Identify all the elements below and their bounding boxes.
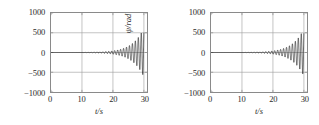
x-axis-title-psi: t/s	[210, 107, 308, 116]
x-tick-label: 30	[141, 95, 149, 104]
y-tick-label: 0	[41, 48, 45, 57]
panel-psi: 10005000−500−1000 0102030 t/s ψ/rad	[160, 0, 319, 125]
y-tick-label: −1000	[24, 89, 45, 98]
plot-area-psi	[210, 12, 308, 93]
x-tick-label: 10	[238, 95, 246, 104]
y-tick-label: 500	[33, 28, 45, 37]
x-tick-label: 0	[48, 95, 52, 104]
y-axis-ticks-theta: 10005000−500−1000	[0, 12, 48, 93]
x-tick-label: 10	[78, 95, 86, 104]
x-axis-title-theta: t/s	[50, 107, 148, 116]
plot-svg-psi	[211, 13, 307, 92]
x-tick-label: 20	[109, 95, 117, 104]
y-tick-label: −500	[28, 69, 45, 78]
x-tick-label: 0	[208, 95, 212, 104]
y-tick-label: −500	[188, 69, 205, 78]
y-tick-label: 500	[193, 28, 205, 37]
x-tick-label: 30	[301, 95, 309, 104]
y-tick-label: 1000	[29, 8, 45, 17]
y-axis-title-psi: ψ/rad	[124, 0, 136, 64]
y-tick-label: −1000	[184, 89, 205, 98]
y-tick-label: 0	[201, 48, 205, 57]
y-tick-label: 1000	[189, 8, 205, 17]
y-axis-ticks-psi: 10005000−500−1000	[160, 12, 208, 93]
x-tick-label: 20	[269, 95, 277, 104]
figure-two-panel-plot: 10005000−500−1000 0102030 t/s θ/rad 1000…	[0, 0, 319, 125]
